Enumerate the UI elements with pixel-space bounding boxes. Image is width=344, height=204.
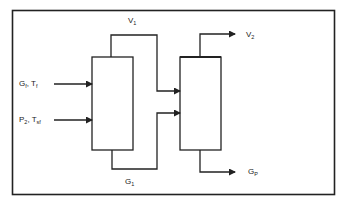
stream-v2-line (200, 34, 235, 57)
process-diagram (0, 0, 344, 204)
stream-v1-line (111, 35, 180, 91)
label-g1: G1 (125, 178, 134, 187)
outer-frame (13, 11, 335, 195)
unit-2-box (180, 57, 221, 150)
label-feed-p2: P2, Tsf (19, 116, 41, 125)
label-v2: V2 (246, 31, 254, 40)
unit-1-box (92, 57, 133, 150)
stream-gp-line (200, 150, 235, 172)
label-feed-gf: Gf, Tf (19, 80, 38, 89)
label-gp: GP (248, 168, 258, 177)
label-v1: V1 (128, 17, 136, 26)
stream-g1-line (112, 113, 180, 169)
